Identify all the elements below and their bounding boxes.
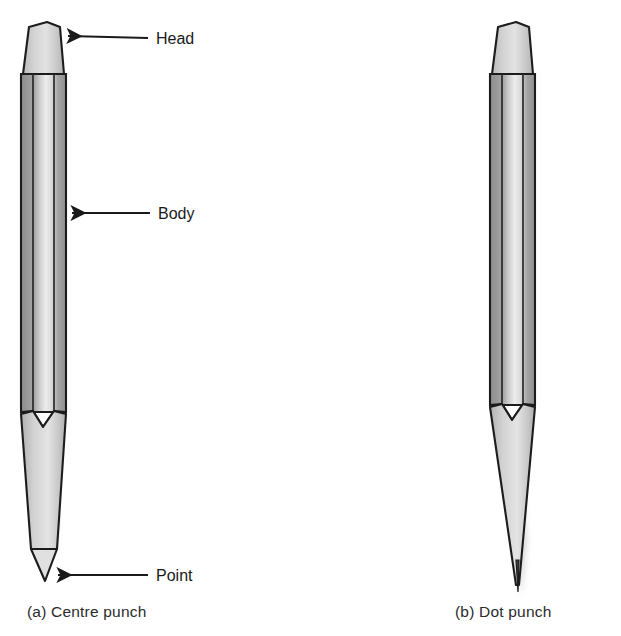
callout-head: Head xyxy=(68,30,194,47)
centre-punch-body xyxy=(21,74,66,412)
centre-punch: Head Body Point xyxy=(21,22,194,584)
callout-body: Body xyxy=(72,205,194,222)
callout-point: Point xyxy=(58,567,193,584)
head-label: Head xyxy=(156,30,194,47)
caption-dot-punch: (b) Dot punch xyxy=(455,603,552,621)
dot-punch-head xyxy=(492,22,533,74)
dot-punch-taper xyxy=(490,404,535,585)
body-label: Body xyxy=(158,205,194,222)
point-label: Point xyxy=(156,567,193,584)
dot-punch-point xyxy=(516,560,519,592)
centre-punch-point xyxy=(31,549,57,581)
centre-punch-head xyxy=(23,22,64,74)
dot-punch-body xyxy=(490,74,535,405)
caption-centre-punch: (a) Centre punch xyxy=(27,603,147,621)
centre-punch-taper xyxy=(21,411,66,549)
punch-diagram: Head Body Point xyxy=(0,0,621,636)
head-leader-line xyxy=(68,36,148,38)
dot-punch xyxy=(490,22,535,596)
